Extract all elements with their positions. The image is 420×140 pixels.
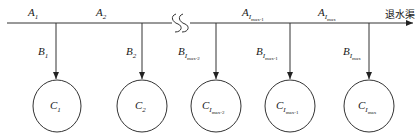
outlet-channel-label: 退水渠 [385,10,415,20]
node-label-c2: C2 [135,100,146,114]
segment-label-a-imax: AImax [318,7,336,22]
branch-label-b-imax-1: BImax-1 [256,46,278,61]
branch-label-b1: B1 [38,46,48,60]
segment-label-a-imax-1: AImax-1 [242,7,264,22]
diagram-graphics [0,0,420,140]
branch-label-b2: B2 [126,46,136,60]
node-label-c-imax-2: CImax-2 [202,100,224,115]
branch-label-b-imax-2: BImax-2 [178,46,200,61]
branch-label-b-imax: BImax [343,46,361,61]
segment-label-a2: A2 [96,7,106,21]
node-label-c-imax: CImax [358,100,376,115]
node-label-c-imax-1: CImax-1 [276,100,298,115]
segment-label-a1: A1 [28,7,38,21]
drainage-network-diagram: A1 A2 AImax-1 AImax 退水渠 B1 B2 BImax-2 BI… [0,0,420,140]
break-symbol-icon [172,14,188,32]
node-label-c1: C1 [50,100,61,114]
